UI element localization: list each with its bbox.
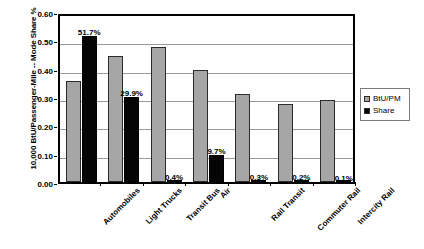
- x-axis-tick-mark: [228, 182, 229, 186]
- x-axis-tick-mark: [313, 182, 314, 186]
- y-axis-tick-label: 0.30: [37, 95, 53, 104]
- bar-value-label: 0.2%: [292, 173, 310, 182]
- y-axis-tick-mark: [54, 71, 57, 72]
- legend-swatch-share-icon: [364, 108, 370, 114]
- bar-btu-pm: [66, 81, 81, 182]
- y-axis-tick-label: 0.40: [37, 66, 53, 75]
- y-axis-tick-mark: [54, 184, 57, 185]
- y-axis-tick-mark: [54, 99, 57, 100]
- y-axis-tick-mark: [54, 42, 57, 43]
- bar-btu-pm: [235, 94, 250, 182]
- bar-btu-pm: [193, 70, 208, 182]
- x-axis-tick-mark: [270, 182, 271, 186]
- x-axis-tick-mark: [143, 182, 144, 186]
- bar-btu-pm: [151, 47, 166, 182]
- bars-layer: 51.7%29.9%0.4%9.7%0.3%0.2%0.1%: [60, 16, 353, 182]
- bar-value-label: 51.7%: [78, 28, 101, 37]
- x-axis-label: Automobiles: [101, 186, 142, 227]
- bar-btu-pm: [320, 100, 335, 182]
- legend-label-btu-pm: BtU/PM: [373, 94, 401, 103]
- x-axis-label: Transit Bus: [185, 186, 222, 223]
- x-axis-tick-mark: [355, 182, 356, 186]
- plot-area: 51.7%29.9%0.4%9.7%0.3%0.2%0.1%: [58, 14, 355, 184]
- legend-item-share: Share: [364, 105, 406, 116]
- x-axis-tick-mark: [185, 182, 186, 186]
- y-axis-tick-mark: [54, 156, 57, 157]
- legend-label-share: Share: [373, 106, 394, 115]
- x-axis-category-labels: AutomobilesLight TrucksTransit BusAirRai…: [58, 186, 355, 248]
- y-axis-tick-labels: 0.600.500.400.300.200.100.00: [20, 14, 57, 184]
- y-axis-tick-label: 0.00: [37, 180, 53, 189]
- y-axis-tick-label: 0.50: [37, 38, 53, 47]
- chart-legend: BtU/PM Share: [360, 88, 410, 121]
- bar-value-label: 29.9%: [120, 89, 143, 98]
- y-axis-tick-mark: [54, 14, 57, 15]
- y-axis-tick-label: 0.20: [37, 123, 53, 132]
- bar-value-label: 0.1%: [335, 174, 353, 183]
- bar-value-label: 0.3%: [250, 173, 268, 182]
- legend-item-btu-pm: BtU/PM: [364, 93, 406, 104]
- bar-btu-pm: [108, 56, 123, 182]
- y-axis-tick-mark: [54, 127, 57, 128]
- bar-share: [124, 97, 139, 182]
- bar-share: [209, 155, 224, 182]
- bar-share: [82, 36, 97, 182]
- x-axis-tick-mark: [100, 182, 101, 186]
- y-axis-tick-label: 0.10: [37, 151, 53, 160]
- bar-value-label: 0.4%: [165, 173, 183, 182]
- chart-container: 10,000 BtU/Passenger-Mile -- Mode Share …: [0, 0, 424, 249]
- bar-value-label: 9.7%: [207, 147, 225, 156]
- x-axis-label: Commuter Rail: [316, 186, 363, 233]
- x-axis-label: Light Trucks: [144, 186, 184, 226]
- legend-swatch-btu-pm-icon: [364, 96, 370, 102]
- x-axis-label: Air: [218, 186, 232, 200]
- y-axis-tick-label: 0.60: [37, 10, 53, 19]
- bar-btu-pm: [278, 104, 293, 182]
- x-axis-label: Rail Transit: [270, 186, 307, 223]
